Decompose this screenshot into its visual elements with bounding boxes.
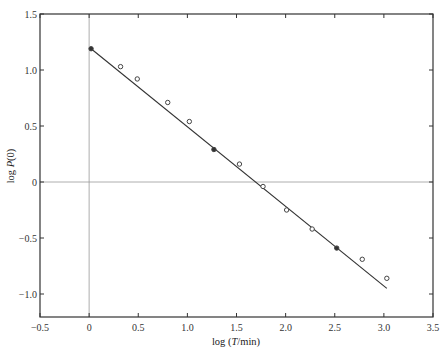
- chart: −0.500.51.01.52.02.53.03.5 1.51.00.50−0.…: [0, 0, 447, 360]
- y-axis-ticks: 1.51.00.50−0.5−1.0: [19, 9, 433, 300]
- data-point: [118, 64, 122, 68]
- y-tick-label: 0: [32, 177, 37, 188]
- regression-line: [91, 49, 387, 289]
- x-tick-label: 0.5: [132, 322, 145, 333]
- reference-lines: [40, 14, 433, 317]
- plot-frame: [40, 14, 433, 317]
- data-point: [261, 184, 265, 188]
- x-tick-label: 3.0: [378, 322, 391, 333]
- x-axis-label: log (T/min): [212, 336, 261, 348]
- data-point: [284, 208, 288, 212]
- data-point: [237, 162, 241, 166]
- data-point: [360, 257, 364, 261]
- x-tick-label: 2.5: [329, 322, 342, 333]
- x-tick-label: 2.0: [279, 322, 292, 333]
- y-tick-label: 0.5: [25, 121, 38, 132]
- y-tick-label: −0.5: [19, 233, 37, 244]
- data-point: [385, 276, 389, 280]
- data-point: [135, 77, 139, 81]
- y-tick-label: −1.0: [19, 289, 37, 300]
- y-axis-label: log P(0): [5, 148, 17, 183]
- data-point: [310, 227, 314, 231]
- data-points: [89, 47, 389, 281]
- data-point: [335, 246, 339, 250]
- data-point: [166, 100, 170, 104]
- x-tick-label: 0: [87, 322, 92, 333]
- y-tick-label: 1.5: [25, 9, 38, 20]
- data-point: [187, 119, 191, 123]
- fit-line: [91, 49, 387, 289]
- data-point: [212, 147, 216, 151]
- x-tick-label: 1.0: [181, 322, 194, 333]
- x-tick-label: 1.5: [230, 322, 243, 333]
- data-point: [89, 47, 93, 51]
- x-tick-label: 3.5: [427, 322, 440, 333]
- y-tick-label: 1.0: [25, 65, 38, 76]
- x-tick-label: −0.5: [31, 322, 49, 333]
- x-axis-ticks: −0.500.51.01.52.02.53.03.5: [31, 14, 439, 333]
